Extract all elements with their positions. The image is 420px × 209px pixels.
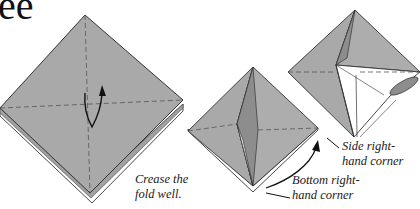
caption-line: fold well. — [135, 187, 188, 202]
caption-crease: Crease the fold well. — [135, 172, 188, 202]
caption-side-corner: Side right- hand corner — [342, 139, 403, 169]
caption-line: Bottom right- — [292, 173, 360, 188]
caption-line: Side right- — [342, 139, 403, 154]
caption-bottom-corner: Bottom right- hand corner — [292, 173, 360, 203]
caption-line: Crease the — [135, 172, 188, 187]
caption-line: hand corner — [342, 154, 403, 169]
caption-line: hand corner — [292, 188, 360, 203]
